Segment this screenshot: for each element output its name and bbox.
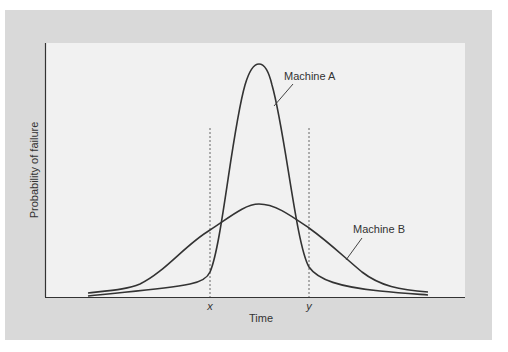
leader-machine-a bbox=[274, 84, 293, 106]
curve-machine-b bbox=[88, 204, 428, 293]
label-machine-b: Machine B bbox=[353, 223, 405, 235]
label-machine-a: Machine A bbox=[284, 70, 336, 82]
y-axis-title: Probability of failure bbox=[28, 122, 40, 219]
x-axis-title: Time bbox=[249, 312, 273, 324]
chart-svg: Machine A Machine B x y Time Probability… bbox=[0, 0, 508, 352]
curve-machine-a bbox=[88, 64, 428, 296]
leader-machine-b bbox=[346, 238, 362, 260]
tick-label-x: x bbox=[206, 300, 213, 312]
tick-label-y: y bbox=[305, 300, 313, 312]
